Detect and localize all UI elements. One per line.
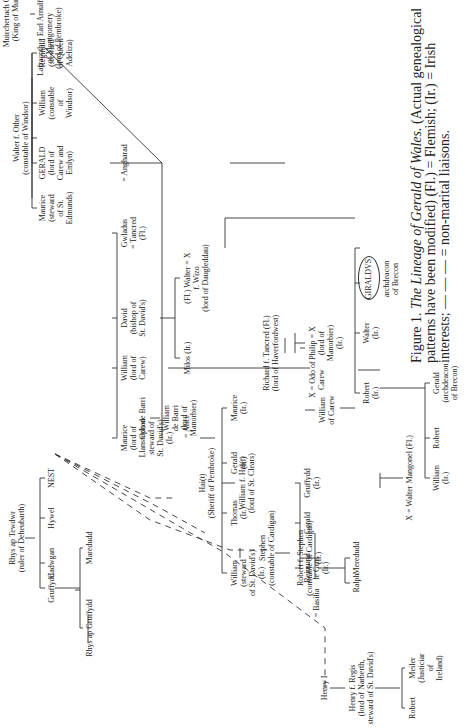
node-william-lord-of-carew: William(lord ofCarew) [120,355,147,381]
node-hait: Hai(t)(Sheriff of Pembroke) [198,448,216,519]
caption-title: The Lineage of Gerald of Wales. [409,127,424,308]
node-reginald: Reginald(stewardof QueenAdeliza) [38,38,74,68]
node-robert-f-stephen: Robert f. Stephen(constable of Cardigan)… [296,520,323,596]
node-philip: Philip = X(lord ofManorbier)(Ir.) [308,325,344,361]
node-angharad: = Angharad [120,144,129,182]
node-archdeacon-of-brecon: archdeaconof Brecon [382,261,400,297]
node-x-odo-of-carew: X = Odo ofCarew [308,361,326,398]
figure-caption: Figure 1. The Lineage of Gerald of Wales… [410,3,452,363]
node-giraldus: GIRALDVS [364,259,373,299]
node-x-walter-mangonel: X = Walter Mangonel (Fl.) [405,435,414,521]
node-cadwgan: Cadwgan [47,548,56,578]
node-walter-ir: Walter(Ir.) [362,322,380,343]
node-william-of-carew: Williamof Carew [318,395,336,425]
node-hywel: Hywel [47,507,56,528]
genealogy-figure: Muirchertach O Brien(King of Munster) La… [0,0,467,728]
node-gruffydd-ir: Gruffydd(Ir.) [303,468,321,498]
node-robert-ir: Robert(Ir.) [362,382,380,404]
node-walter-f-other: Walter f. Other(constable of Windsor) [12,101,30,174]
node-stephen: Stephen(constable of Cardigan) [258,510,276,586]
node-robert-son-of-henry: Robert [408,697,417,719]
node-william-ir-lower: William(Ir.) [432,465,450,491]
node-rhys-ap-tewdwr: Rhys ap Tewdwr(ruler of Deheubarth) [8,504,26,572]
node-william-f-hait: William f. Hai(t)(lord of St. Clears) [238,453,256,513]
node-gerald-archdeacon: Gerald(archdeaconof Brecon) [432,363,459,402]
node-henry-i: Henry I [320,676,329,701]
node-david-bishop: David(bishop ofSt. David's) [120,299,147,336]
node-gerald-lord-of-carew: GERALD(lord ofCarew andEmlyn) [38,146,74,180]
node-walter-wizo: (Fl.) Walter = Xf. Wizo(lord of Daugledd… [183,244,210,312]
node-meiler: Meiler(JusticiarofIreland) [408,653,444,682]
node-milos: Milos (Ir.) [183,342,192,375]
node-maurice-steward-edmunds: Maurice(stewardof St.Edmunds) [38,192,74,225]
node-robert-lower: Robert [432,427,441,449]
node-ralph: Ralph [352,573,361,592]
node-odo-de-barri: Odo de Barri [138,397,147,439]
node-richard-f-tancred: Richard f. Tancred (Fl.)(lord of Haverfo… [262,315,280,391]
node-henry-f-regis: Henry f. Regis(lord of Narberth,steward … [348,652,375,725]
node-rhys-ap-gruffydd: Rhys ap Gruffydd [85,599,94,657]
node-william-de-barri: Williamde Barri(lord ofManorbier) [162,400,198,436]
node-gwladus: Gwladus= Tancred(Fl.) [120,217,147,249]
node-maredudd: Maredudd [85,532,94,565]
caption-label: Figure 1. [409,312,424,363]
node-maurice-ir: Maurice(Ir.) [230,395,248,422]
node-muirchertach: Muirchertach O Brien(King of Munster) [2,0,20,47]
node-william-constable-windsor: William(constableofWindsor) [38,87,74,120]
node-nest: NEST [47,468,56,488]
node-meredudd: Meredudd [352,542,361,575]
